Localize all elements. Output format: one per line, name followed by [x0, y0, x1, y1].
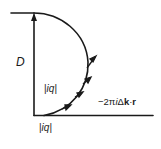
label-iq-bottom: |iq|	[39, 123, 52, 133]
label-phase: −2πiΔk·r	[98, 97, 136, 107]
diagram-graphics	[0, 0, 161, 149]
label-iq-middle-text: iq	[47, 83, 55, 94]
label-iq-bottom-text: iq	[42, 122, 50, 133]
diagram-canvas: D |iq| |iq| −2πiΔk·r	[0, 0, 161, 149]
label-d: D	[16, 56, 25, 68]
d-arrow-head-icon	[31, 13, 37, 21]
phasor-arrow-head-icon	[77, 92, 83, 97]
phase-prefix: −2π	[98, 96, 115, 107]
phasor-arrow-head-icon	[90, 56, 96, 62]
phase-r: r	[132, 96, 136, 107]
phasor-arrow-head-icon	[65, 105, 71, 110]
phasor-arc	[34, 13, 88, 116]
label-iq-middle: |iq|	[44, 84, 57, 94]
